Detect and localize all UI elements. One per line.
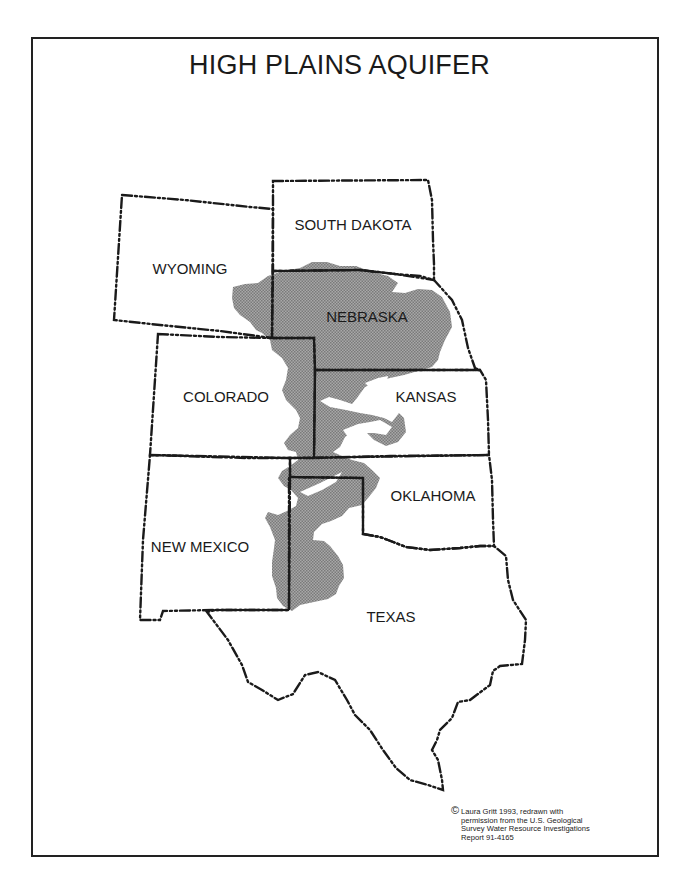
high-plains-map: WYOMING SOUTH DAKOTA NEBRASKA COLORADO K…	[0, 0, 679, 885]
label-south-dakota: SOUTH DAKOTA	[294, 216, 411, 233]
label-wyoming: WYOMING	[153, 260, 228, 277]
label-new-mexico: NEW MEXICO	[151, 538, 249, 555]
copyright-icon: ©	[451, 806, 459, 815]
credit-line: Report 91-4165	[461, 834, 590, 843]
label-kansas: KANSAS	[396, 388, 457, 405]
label-nebraska: NEBRASKA	[326, 308, 408, 325]
label-oklahoma: OKLAHOMA	[390, 487, 475, 504]
texas-border	[207, 477, 526, 790]
label-colorado: COLORADO	[183, 388, 269, 405]
label-texas: TEXAS	[366, 608, 415, 625]
credit-note: © Laura Gritt 1993, redrawn with permiss…	[461, 808, 590, 842]
